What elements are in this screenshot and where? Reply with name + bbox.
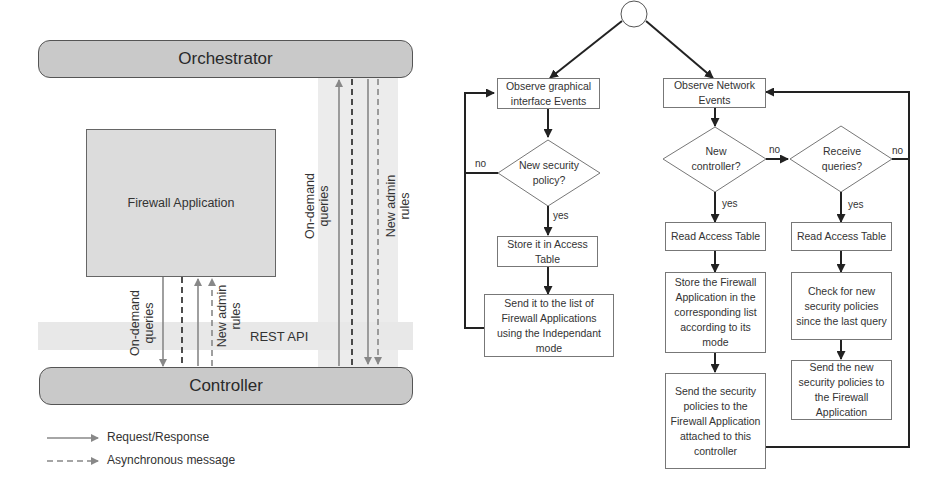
right-queries-label: On-demand queries — [303, 167, 331, 245]
observe-gui-events-box: Observe graphical interface Events — [497, 78, 600, 109]
right-rules-label: New admin rules — [384, 166, 412, 246]
receive-queries-text: Receive queries? — [806, 141, 878, 177]
observe-network-events-box: Observe Network Events — [663, 78, 766, 108]
legend-async-message: Asynchronous message — [107, 453, 235, 467]
store-access-table-box: Store it in Access Table — [497, 236, 598, 267]
receive-queries-no-label: no — [892, 145, 903, 156]
left-queries-label: On-demand queries — [128, 284, 156, 362]
read-access-table-box-controller: Read Access Table — [665, 222, 766, 251]
orchestrator-bar: Orchestrator — [38, 40, 413, 78]
legend-request-response: Request/Response — [107, 430, 209, 444]
start-node — [621, 1, 647, 27]
new-security-policy-text: New security policy? — [510, 155, 588, 191]
left-rules-label: New admin rules — [215, 276, 243, 356]
left-yes-label: yes — [553, 210, 569, 221]
send-policies-to-attached-box: Send the security policies to the Firewa… — [665, 373, 766, 469]
store-firewall-app-box: Store the Firewall Application in the co… — [665, 272, 766, 353]
orchestrator-label: Orchestrator — [178, 49, 272, 69]
read-access-table-box-queries: Read Access Table — [791, 222, 892, 251]
new-controller-no-label: no — [769, 144, 780, 155]
send-to-firewall-list-box: Send it to the list of Firewall Applicat… — [484, 294, 614, 357]
rest-api-label: REST API — [250, 329, 308, 344]
firewall-application-label: Firewall Application — [128, 196, 235, 210]
controller-bar: Controller — [39, 367, 413, 405]
send-new-policies-box: Send the new security policies to the Fi… — [791, 360, 892, 420]
controller-label: Controller — [189, 376, 263, 396]
new-controller-text: New controller? — [680, 141, 752, 177]
left-no-label: no — [475, 158, 486, 169]
receive-queries-yes-label: yes — [848, 199, 864, 210]
firewall-application-box: Firewall Application — [86, 129, 276, 277]
new-controller-yes-label: yes — [722, 198, 738, 209]
check-new-policies-box: Check for new security policies since th… — [791, 272, 892, 340]
